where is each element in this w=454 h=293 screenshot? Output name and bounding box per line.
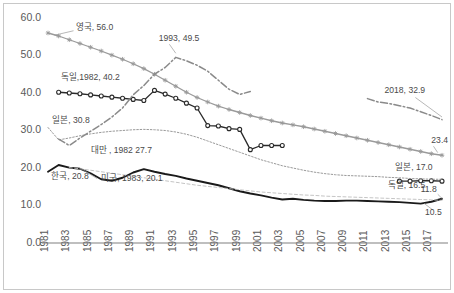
x-tick-2017: 2017	[422, 229, 433, 252]
data-point	[216, 124, 220, 128]
annotation-korea-end-2018: 11.8	[421, 184, 437, 194]
data-point	[195, 106, 199, 110]
y-tick-40.0: 40.0	[21, 86, 42, 98]
data-point	[323, 129, 328, 134]
data-point	[259, 144, 263, 148]
data-point	[99, 94, 103, 98]
data-point	[131, 97, 135, 101]
data-point	[184, 90, 189, 95]
data-point	[376, 140, 381, 145]
data-point	[269, 118, 274, 123]
x-tick-1981: 1981	[39, 229, 50, 252]
data-point	[173, 84, 178, 89]
data-point	[78, 41, 83, 46]
data-point	[89, 93, 93, 97]
data-point	[216, 104, 221, 109]
x-tick-2001: 2001	[252, 229, 263, 252]
x-tick-2005: 2005	[295, 229, 306, 252]
data-point	[184, 101, 188, 105]
data-point	[248, 113, 253, 118]
data-point	[67, 37, 72, 42]
line-chart: 60.050.040.030.020.010.00.0 198119831985…	[0, 0, 454, 293]
data-point	[142, 66, 147, 71]
data-point	[333, 131, 338, 136]
data-point	[88, 45, 93, 50]
x-tick-2003: 2003	[273, 229, 284, 252]
annotation-taiwan-end: 2018, 32.9	[385, 85, 426, 95]
data-point	[248, 148, 252, 152]
data-point	[259, 116, 264, 121]
chart-container: 60.050.040.030.020.010.00.0 198119831985…	[0, 0, 454, 293]
data-point	[195, 95, 200, 100]
x-tick-1987: 1987	[103, 229, 114, 252]
x-tick-2009: 2009	[337, 229, 348, 252]
x-tick-1989: 1989	[124, 229, 135, 252]
data-point	[131, 61, 136, 66]
data-point	[227, 107, 232, 112]
data-point	[120, 57, 125, 62]
annotation-germany-start: 독일,1982, 40.2	[61, 72, 120, 82]
x-tick-1999: 1999	[231, 229, 242, 252]
annotation-japan-end: 일본, 17.0	[395, 162, 433, 172]
data-point	[280, 144, 284, 148]
data-point	[110, 95, 114, 99]
data-point	[206, 124, 210, 128]
data-point	[152, 88, 156, 92]
data-point	[99, 49, 104, 54]
y-tick-20.0: 20.0	[21, 161, 42, 173]
data-point	[344, 133, 349, 138]
data-point	[270, 144, 274, 148]
data-point	[291, 123, 296, 128]
data-point	[227, 127, 231, 131]
data-point	[78, 92, 82, 96]
annotation-korea-min: 10.5	[425, 207, 442, 217]
x-tick-2013: 2013	[380, 229, 391, 252]
x-tick-1993: 1993	[167, 229, 178, 252]
y-tick-50.0: 50.0	[21, 48, 42, 60]
y-tick-30.0: 30.0	[21, 123, 42, 135]
data-point	[440, 153, 445, 158]
data-point	[418, 149, 423, 154]
data-point	[57, 90, 61, 94]
x-tick-1983: 1983	[60, 229, 71, 252]
data-point	[429, 151, 434, 156]
y-tick-60.0: 60.0	[21, 11, 42, 23]
data-point	[46, 31, 51, 36]
annotation-taiwan-peak: 1993, 49.5	[159, 33, 200, 43]
data-point	[67, 91, 71, 95]
annotation-taiwan-start: 대만 , 1982 27.7	[91, 145, 153, 155]
data-point	[355, 136, 360, 141]
annotation-usa-start: 미국, 1983, 20.1	[101, 173, 163, 183]
y-tick-10.0: 10.0	[21, 198, 42, 210]
x-tick-1997: 1997	[209, 229, 220, 252]
x-tick-1995: 1995	[188, 229, 199, 252]
annotation-uk-end: 23.4	[431, 135, 448, 145]
x-tick-1985: 1985	[82, 229, 93, 252]
annotation-korea-start: 한국, 20.8	[51, 171, 89, 181]
data-point	[163, 78, 168, 83]
data-point	[301, 124, 306, 129]
x-tick-2015: 2015	[401, 229, 412, 252]
data-point	[237, 110, 242, 115]
annotation-uk-start: 영국, 56.0	[76, 22, 114, 32]
data-point	[174, 96, 178, 100]
data-point	[312, 127, 317, 132]
data-point	[142, 99, 146, 103]
data-point	[238, 127, 242, 131]
data-point	[280, 121, 285, 126]
data-point	[386, 142, 391, 147]
data-point	[365, 138, 370, 143]
data-point	[163, 92, 167, 96]
x-tick-2007: 2007	[316, 229, 327, 252]
x-tick-2011: 2011	[358, 230, 369, 252]
data-point	[397, 145, 402, 150]
data-point	[121, 96, 125, 100]
annotation-japan-start: 일본, 30.8	[52, 115, 90, 125]
data-point	[205, 100, 210, 105]
data-point	[110, 53, 115, 58]
data-point	[408, 147, 413, 152]
x-tick-1991: 1991	[145, 229, 156, 252]
